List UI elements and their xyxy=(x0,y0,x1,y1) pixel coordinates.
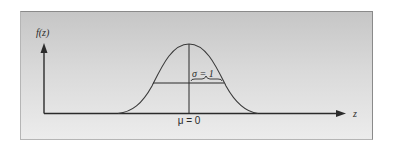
y-axis-arrow-icon xyxy=(41,43,48,53)
normal-distribution-diagram: f(z) z σ = 1 μ = 0 xyxy=(0,0,394,152)
mean-label: μ = 0 xyxy=(178,115,201,126)
x-axis-arrow-icon xyxy=(336,110,346,117)
y-axis-label: f(z) xyxy=(36,27,50,39)
sigma-label: σ = 1 xyxy=(192,68,214,79)
x-axis-label: z xyxy=(352,108,357,119)
normal-curve xyxy=(118,44,258,114)
